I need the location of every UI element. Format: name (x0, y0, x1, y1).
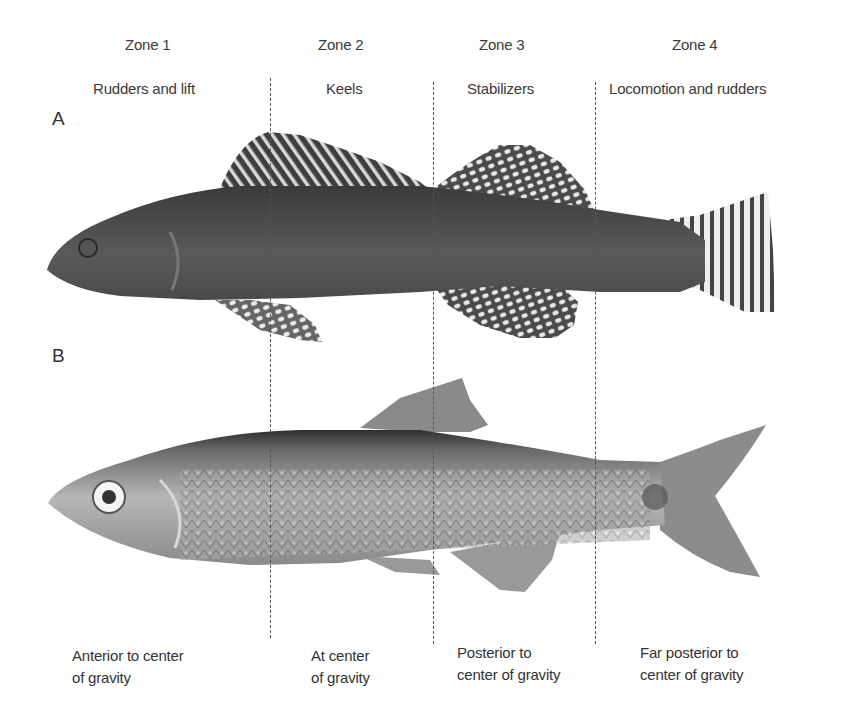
fish-b-pelvic-fin (360, 556, 440, 575)
zone-divider-1-2 (270, 78, 271, 638)
fish-a-dorsal-fin-1 (220, 132, 430, 190)
zone-1-position-line-2: of gravity (72, 667, 183, 689)
zone-3-position-line-1: Posterior to (457, 642, 560, 664)
fish-b (48, 378, 766, 592)
fish-a-eye (79, 239, 97, 257)
zone-3-position-line-2: center of gravity (457, 664, 560, 686)
zone-1-position: Anterior to center of gravity (72, 645, 183, 689)
zone-divider-3-4 (595, 82, 596, 644)
fish-b-caudal-fin (660, 425, 766, 577)
zone-4-position-line-2: center of gravity (640, 664, 743, 686)
zone-3-position: Posterior to center of gravity (457, 642, 560, 686)
zone-2-position-line-1: At center (311, 645, 370, 667)
zone-2-position: At center of gravity (311, 645, 370, 689)
fish-a-anal-fin (432, 282, 578, 338)
fish-a-pelvic-fin (215, 300, 322, 342)
zone-4-position-line-1: Far posterior to (640, 642, 743, 664)
zone-2-position-line-2: of gravity (311, 667, 370, 689)
fish-a (47, 132, 775, 342)
zone-1-position-line-1: Anterior to center (72, 645, 183, 667)
fish-b-dorsal-fin (360, 378, 488, 432)
fish-a-body (47, 186, 705, 300)
fish-b-caudal-spot (642, 484, 668, 510)
zone-4-position: Far posterior to center of gravity (640, 642, 743, 686)
fish-illustrations (0, 0, 848, 724)
zone-divider-2-3 (433, 82, 434, 644)
